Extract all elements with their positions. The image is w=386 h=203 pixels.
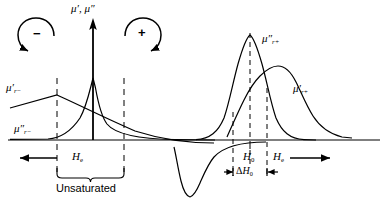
- subscript-r-minus: r−: [14, 87, 21, 94]
- y-axis-label: μ′, μ″: [71, 2, 95, 14]
- figure-canvas: [0, 0, 386, 203]
- subscript-e: e: [80, 156, 83, 163]
- h-glyph: H: [273, 150, 281, 162]
- label-he-left: He: [72, 150, 83, 163]
- mu-prime-glyph: μ′: [293, 82, 301, 94]
- rotation-sign-negative: −: [33, 26, 41, 41]
- permeability-resonance-figure: μ′, μ″ − + μ′r− μ″r− μ″r+ μ′r+ He H0 He …: [0, 0, 386, 203]
- mu-prime-glyph: μ′: [6, 81, 14, 93]
- label-mu-prime-r-plus: μ′r+: [293, 82, 308, 95]
- curve-mu-prime-r-plus-rise: [227, 66, 352, 138]
- rotation-sign-positive: +: [138, 25, 146, 40]
- label-mu-double-prime-r-plus: μ″r+: [262, 32, 279, 45]
- h-glyph: H: [72, 150, 80, 162]
- h-glyph: H: [242, 165, 249, 176]
- subscript-r-minus: r−: [24, 128, 31, 135]
- subscript-r-plus: r+: [301, 88, 308, 95]
- label-delta-h0: ΔH0: [236, 165, 253, 177]
- unsaturated-brace: [57, 168, 124, 182]
- subscript-e: e: [281, 156, 284, 163]
- subscript-r-plus: r+: [272, 38, 279, 45]
- subscript-zero: 0: [251, 156, 254, 163]
- mu-double-prime-glyph: μ″: [14, 122, 24, 134]
- label-mu-prime-r-minus: μ′r−: [6, 81, 21, 94]
- label-he-right: He: [273, 150, 284, 163]
- mu-double-prime-glyph: μ″: [262, 32, 272, 44]
- h-glyph: H: [243, 150, 251, 162]
- curve-mu-double-prime-r-minus: [10, 78, 215, 140]
- curve-mu-prime-r-minus: [10, 95, 214, 143]
- label-h0: H0: [243, 150, 254, 163]
- label-unsaturated: Unsaturated: [56, 182, 116, 194]
- subscript-zero: 0: [250, 170, 253, 177]
- label-mu-double-prime-r-minus: μ″r−: [14, 122, 31, 135]
